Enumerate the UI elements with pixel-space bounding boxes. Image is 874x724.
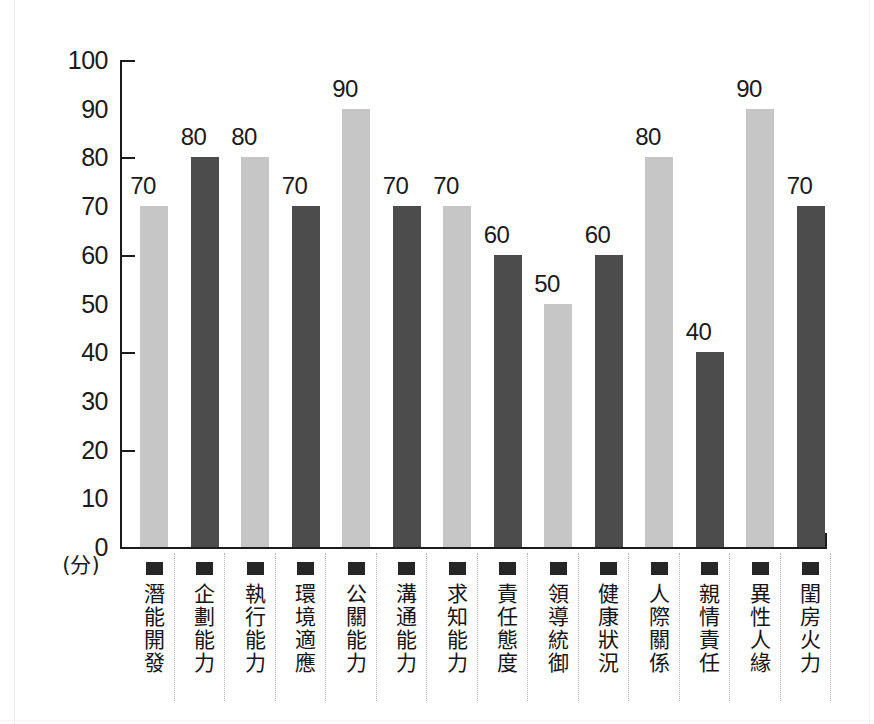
category-label: 閨房火力	[799, 583, 823, 675]
square-marker-icon	[247, 562, 264, 575]
category-divider	[174, 553, 175, 701]
square-marker-icon	[196, 562, 213, 575]
category-label: 健康狀況	[597, 583, 621, 675]
category-axis: 潛能開發企劃能力執行能力環境適應公關能力溝通能力求知能力責任態度領導統御健康狀況…	[120, 551, 827, 721]
bar[interactable]	[746, 109, 774, 547]
bar[interactable]	[696, 352, 724, 547]
bar-value-label: 50	[522, 272, 572, 296]
category-label: 溝通能力	[395, 583, 419, 675]
y-axis-labels: 1009080706050403020100	[48, 60, 108, 549]
category-label: 人際關係	[647, 583, 671, 675]
category-divider	[578, 553, 579, 701]
category-item[interactable]: 企劃能力	[180, 551, 230, 675]
category-item[interactable]: 閨房火力	[786, 551, 836, 675]
square-marker-icon	[752, 562, 769, 575]
category-label: 領導統御	[546, 583, 570, 675]
category-divider	[275, 553, 276, 701]
page-edge-left	[14, 0, 15, 724]
bar-value-label: 80	[219, 125, 269, 149]
category-label: 親情責任	[698, 583, 722, 675]
bar[interactable]	[443, 206, 471, 547]
category-divider	[426, 553, 427, 701]
bar[interactable]	[191, 157, 219, 547]
category-item[interactable]: 環境適應	[281, 551, 331, 675]
category-divider	[527, 553, 528, 701]
category-label: 執行能力	[243, 583, 267, 675]
bar-value-label: 60	[472, 223, 522, 247]
category-divider	[325, 553, 326, 701]
category-label: 企劃能力	[193, 583, 217, 675]
bar[interactable]	[645, 157, 673, 547]
bar-value-label: 70	[775, 174, 825, 198]
category-divider	[679, 553, 680, 701]
bar-value-label: 40	[674, 320, 724, 344]
category-item[interactable]: 責任態度	[483, 551, 533, 675]
y-axis-tick-label: 90	[56, 97, 108, 122]
square-marker-icon	[398, 562, 415, 575]
bar[interactable]	[292, 206, 320, 547]
category-divider	[729, 553, 730, 701]
bar-value-label: 90	[724, 77, 774, 101]
square-marker-icon	[449, 562, 466, 575]
category-label: 責任態度	[496, 583, 520, 675]
chart-page: 1009080706050403020100 (分) 7080807090707…	[0, 0, 874, 724]
category-divider	[224, 553, 225, 701]
bar-series: 7080807090707060506080409070	[120, 60, 827, 549]
page-edge-right	[869, 0, 870, 724]
category-label: 環境適應	[294, 583, 318, 675]
category-item[interactable]: 執行能力	[230, 551, 280, 675]
bar-value-label: 80	[169, 125, 219, 149]
y-axis-tick-label: 50	[56, 292, 108, 317]
bar[interactable]	[140, 206, 168, 547]
bar[interactable]	[241, 157, 269, 547]
bar-value-label: 90	[320, 77, 370, 101]
category-item[interactable]: 親情責任	[685, 551, 735, 675]
bar-value-label: 70	[371, 174, 421, 198]
bar[interactable]	[393, 206, 421, 547]
y-axis-tick-label: 10	[56, 486, 108, 511]
square-marker-icon	[651, 562, 668, 575]
category-item[interactable]: 健康狀況	[584, 551, 634, 675]
category-label: 異性人緣	[748, 583, 772, 675]
bar[interactable]	[595, 255, 623, 547]
square-marker-icon	[550, 562, 567, 575]
y-axis-tick-label: 80	[56, 145, 108, 170]
square-marker-icon	[146, 562, 163, 575]
bar[interactable]	[797, 206, 825, 547]
square-marker-icon	[600, 562, 617, 575]
bar-value-label: 80	[623, 125, 673, 149]
bar[interactable]	[494, 255, 522, 547]
square-marker-icon	[499, 562, 516, 575]
category-label: 潛能開發	[142, 583, 166, 675]
bar[interactable]	[342, 109, 370, 547]
category-item[interactable]: 人際關係	[634, 551, 684, 675]
bar-value-label: 70	[270, 174, 320, 198]
y-axis-tick-label: 20	[56, 438, 108, 463]
category-item[interactable]: 領導統御	[533, 551, 583, 675]
bar[interactable]	[544, 304, 572, 548]
category-item[interactable]: 求知能力	[432, 551, 482, 675]
square-marker-icon	[297, 562, 314, 575]
category-item[interactable]: 潛能開發	[129, 551, 179, 675]
y-axis-tick-label: 40	[56, 340, 108, 365]
bar-value-label: 70	[421, 174, 471, 198]
category-item[interactable]: 溝通能力	[382, 551, 432, 675]
y-axis-tick-label: 100	[56, 48, 108, 73]
y-axis-tick-label: 30	[56, 389, 108, 414]
category-divider	[376, 553, 377, 701]
category-item[interactable]: 異性人緣	[735, 551, 785, 675]
square-marker-icon	[701, 562, 718, 575]
category-item[interactable]: 公關能力	[331, 551, 381, 675]
bar-value-label: 60	[573, 223, 623, 247]
plot-area: 7080807090707060506080409070	[120, 60, 827, 548]
y-axis-tick-label: 70	[56, 194, 108, 219]
bar-value-label: 70	[118, 174, 168, 198]
category-divider	[830, 553, 831, 701]
category-label: 求知能力	[445, 583, 469, 675]
category-divider	[780, 553, 781, 701]
square-marker-icon	[348, 562, 365, 575]
square-marker-icon	[802, 562, 819, 575]
category-divider	[628, 553, 629, 701]
category-label: 公關能力	[344, 583, 368, 675]
y-axis-unit-label: (分)	[50, 553, 112, 577]
